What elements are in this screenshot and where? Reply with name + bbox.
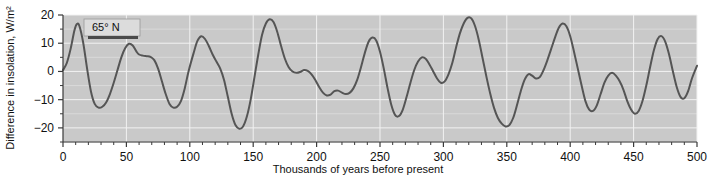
x-tick-label: 400 <box>560 150 580 164</box>
x-tick-label: 450 <box>624 150 644 164</box>
y-tick-label: −10 <box>34 93 55 107</box>
y-tick-label: 20 <box>41 8 55 22</box>
x-tick-label: 200 <box>307 150 327 164</box>
x-tick-label: 150 <box>243 150 263 164</box>
annotation-underline-bar <box>88 36 138 39</box>
y-tick-label: 10 <box>41 36 55 50</box>
y-tick-label: −20 <box>34 121 55 135</box>
y-axis-tick-labels: 20100−10−20 <box>34 8 55 135</box>
x-tick-label: 300 <box>433 150 453 164</box>
y-tick-label: 0 <box>47 64 54 78</box>
y-axis-title: Difference in insolation, W/m² <box>4 6 16 150</box>
insolation-chart-figure: 65° N 20100−10−20 0501001502002503003504… <box>0 0 716 179</box>
annotation-65n: 65° N <box>84 19 140 39</box>
x-tick-label: 0 <box>60 150 67 164</box>
x-tick-label: 250 <box>370 150 390 164</box>
annotation-label: 65° N <box>92 21 120 33</box>
x-tick-label: 500 <box>687 150 707 164</box>
chart-canvas: 65° N 20100−10−20 0501001502002503003504… <box>0 0 716 179</box>
x-axis-tick-labels: 050100150200250300350400450500 <box>60 150 708 164</box>
x-axis-ticks <box>63 142 697 147</box>
x-tick-label: 50 <box>120 150 134 164</box>
x-axis-title: Thousands of years before present <box>273 163 444 175</box>
x-tick-label: 350 <box>497 150 517 164</box>
y-axis-ticks <box>58 15 63 128</box>
x-tick-label: 100 <box>180 150 200 164</box>
